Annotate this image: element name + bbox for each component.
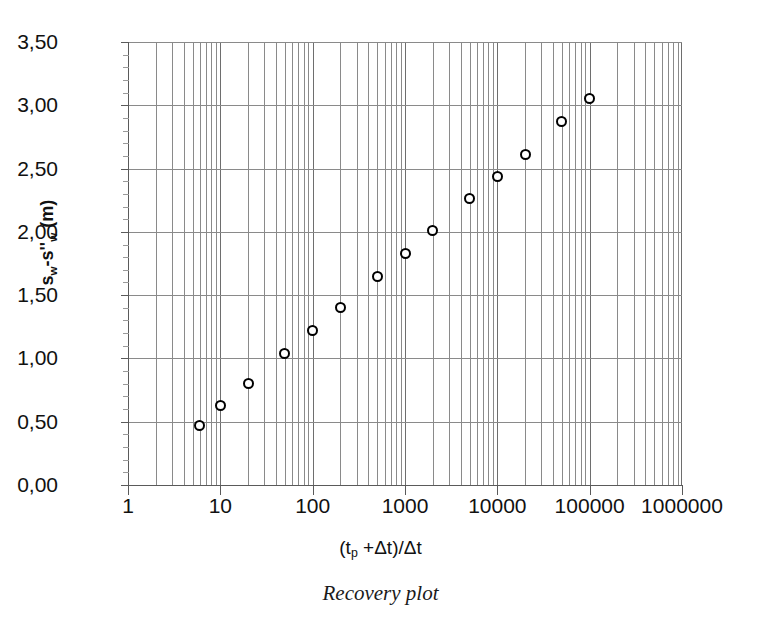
- y-gridline: [128, 422, 682, 423]
- x-tick-minor: [461, 464, 462, 485]
- x-tick-minor: [645, 464, 646, 485]
- x-tick-minor: [470, 464, 471, 485]
- x-tick-minor: [493, 464, 494, 485]
- x-tick-minor: [553, 464, 554, 485]
- y-tick-minor: [123, 93, 129, 94]
- x-gridline-minor: [662, 42, 663, 485]
- x-gridline-minor: [654, 42, 655, 485]
- y-tick-minor: [123, 131, 129, 132]
- plot-area: [128, 42, 682, 485]
- x-gridline-minor: [634, 42, 635, 485]
- y-tick-label: 0,50: [0, 411, 58, 432]
- x-gridline-minor: [193, 42, 194, 485]
- x-tick-minor: [193, 464, 194, 485]
- y-tick-major: [121, 485, 129, 486]
- x-gridline-minor: [396, 42, 397, 485]
- y-tick-minor: [123, 320, 129, 321]
- x-tick-minor: [156, 464, 157, 485]
- y-tick-minor: [123, 460, 129, 461]
- x-tick-minor: [483, 464, 484, 485]
- y-tick-major: [121, 169, 129, 170]
- x-gridline-minor: [340, 42, 341, 485]
- x-tick-minor: [673, 464, 674, 485]
- x-tick-minor: [678, 464, 679, 485]
- x-tick-minor: [401, 464, 402, 485]
- data-point-marker: [335, 302, 346, 313]
- x-tick-minor: [385, 464, 386, 485]
- x-tick-minor: [634, 464, 635, 485]
- y-tick-minor: [123, 55, 129, 56]
- x-gridline-minor: [483, 42, 484, 485]
- x-gridline-minor: [276, 42, 277, 485]
- x-gridline-minor: [673, 42, 674, 485]
- x-gridline-major: [405, 42, 406, 485]
- y-gridline: [128, 42, 682, 43]
- x-gridline-minor: [470, 42, 471, 485]
- x-tick-minor: [172, 464, 173, 485]
- x-tick-minor: [264, 464, 265, 485]
- y-tick-minor: [123, 282, 129, 283]
- x-tick-label: 1000000: [602, 495, 761, 516]
- data-point-marker: [464, 193, 475, 204]
- x-gridline-minor: [357, 42, 358, 485]
- y-tick-minor: [123, 270, 129, 271]
- x-tick-minor: [368, 464, 369, 485]
- data-point-marker: [584, 93, 595, 104]
- x-tick-minor: [298, 464, 299, 485]
- y-tick-minor: [123, 308, 129, 309]
- x-gridline-minor: [585, 42, 586, 485]
- data-point-marker: [520, 149, 531, 160]
- x-tick-minor: [585, 464, 586, 485]
- x-tick-minor: [292, 464, 293, 485]
- y-tick-label: 1,50: [0, 284, 58, 305]
- x-gridline-minor: [184, 42, 185, 485]
- x-gridline-minor: [461, 42, 462, 485]
- y-tick-minor: [123, 156, 129, 157]
- y-tick-minor: [123, 219, 129, 220]
- x-tick-minor: [488, 464, 489, 485]
- x-tick-minor: [581, 464, 582, 485]
- y-tick-minor: [123, 396, 129, 397]
- x-tick-minor: [575, 464, 576, 485]
- y-tick-label: 3,00: [0, 94, 58, 115]
- x-gridline-minor: [449, 42, 450, 485]
- y-tick-major: [121, 358, 129, 359]
- y-tick-label: 3,50: [0, 31, 58, 52]
- x-tick-minor: [668, 464, 669, 485]
- x-tick-minor: [206, 464, 207, 485]
- x-tick-minor: [340, 464, 341, 485]
- x-gridline-minor: [553, 42, 554, 485]
- x-gridline-minor: [368, 42, 369, 485]
- y-gridline: [128, 232, 682, 233]
- x-gridline-major: [313, 42, 314, 485]
- data-point-marker: [556, 116, 567, 127]
- y-tick-minor: [123, 472, 129, 473]
- y-tick-minor: [123, 409, 129, 410]
- x-gridline-minor: [248, 42, 249, 485]
- x-tick-minor: [216, 464, 217, 485]
- data-point-marker: [243, 378, 254, 389]
- x-gridline-minor: [211, 42, 212, 485]
- y-tick-major: [121, 295, 129, 296]
- x-tick-minor: [477, 464, 478, 485]
- x-gridline-minor: [308, 42, 309, 485]
- data-point-marker: [400, 248, 411, 259]
- x-gridline-minor: [433, 42, 434, 485]
- x-gridline-minor: [575, 42, 576, 485]
- x-gridline-minor: [477, 42, 478, 485]
- x-tick-minor: [396, 464, 397, 485]
- x-gridline-minor: [216, 42, 217, 485]
- x-gridline-minor: [525, 42, 526, 485]
- y-gridline: [128, 169, 682, 170]
- x-gridline-minor: [668, 42, 669, 485]
- y-gridline: [128, 105, 682, 106]
- x-gridline-minor: [493, 42, 494, 485]
- y-tick-minor: [123, 447, 129, 448]
- x-gridline-minor: [292, 42, 293, 485]
- y-tick-minor: [123, 333, 129, 334]
- x-tick-minor: [200, 464, 201, 485]
- x-gridline-minor: [298, 42, 299, 485]
- y-tick-label: 2,50: [0, 158, 58, 179]
- x-gridline-minor: [541, 42, 542, 485]
- data-point-marker: [194, 420, 205, 431]
